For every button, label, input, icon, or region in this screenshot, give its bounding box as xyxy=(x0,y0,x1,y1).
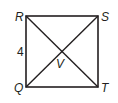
vertex-label-t: T xyxy=(101,81,110,95)
intersection-label-v: V xyxy=(56,57,65,71)
vertex-label-s: S xyxy=(101,10,109,24)
vertex-label-r: R xyxy=(15,10,24,24)
square-diagram: R S T Q V 4 xyxy=(0,0,118,103)
vertex-label-q: Q xyxy=(14,81,23,95)
side-length-label: 4 xyxy=(17,45,24,59)
